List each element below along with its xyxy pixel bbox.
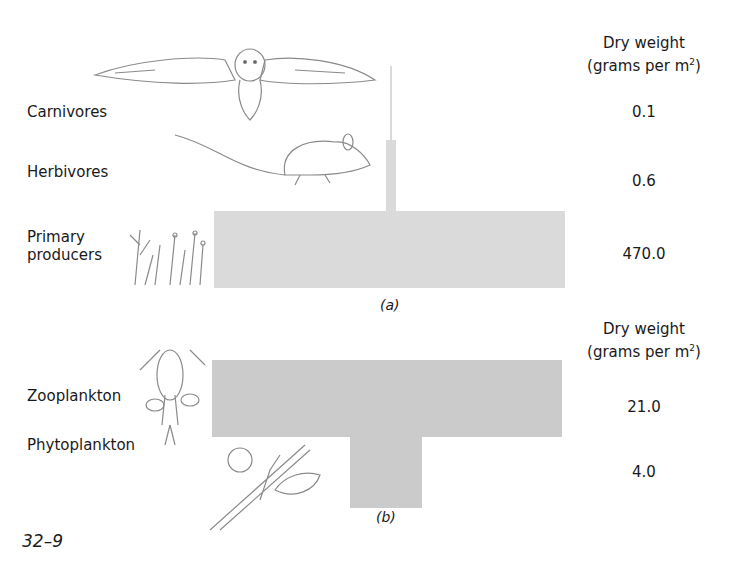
figure-number: 32–9: [22, 531, 63, 551]
value-zooplankton: 21.0: [594, 398, 694, 416]
header-line1: Dry weight: [574, 320, 714, 339]
mouse-icon: [175, 130, 375, 190]
bar-phytoplankton: [350, 437, 422, 508]
bar-zooplankton: [212, 360, 562, 437]
bar-herbivores: [386, 140, 396, 212]
dry-weight-header-b: Dry weight (grams per m2): [574, 320, 714, 362]
header-line2: (grams per m2): [574, 53, 714, 76]
owl-icon: [95, 40, 375, 120]
header-line1: Dry weight: [574, 34, 714, 53]
header-line2: (grams per m2): [574, 339, 714, 362]
algae-icon: [210, 440, 340, 530]
label-herbivores: Herbivores: [27, 163, 108, 181]
grass-icon: [125, 225, 210, 285]
bar-primary-producers: [214, 211, 565, 288]
value-phytoplankton: 4.0: [594, 463, 694, 481]
dry-weight-header-a: Dry weight (grams per m2): [574, 34, 714, 76]
value-primary-producers: 470.0: [594, 245, 694, 263]
caption-b: (b): [376, 509, 396, 525]
label-phytoplankton: Phytoplankton: [27, 436, 135, 454]
label-primary-producers: Primary producers: [27, 228, 102, 264]
label-zooplankton: Zooplankton: [27, 387, 121, 405]
caption-a: (a): [380, 297, 400, 313]
copepod-icon: [140, 340, 210, 450]
value-carnivores: 0.1: [594, 103, 694, 121]
bar-carnivores: [390, 66, 392, 141]
value-herbivores: 0.6: [594, 172, 694, 190]
